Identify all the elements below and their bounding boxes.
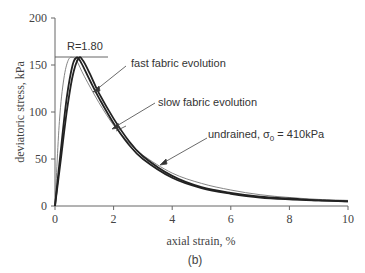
x-tick-2: 2 — [111, 212, 117, 226]
x-tick-0: 0 — [52, 212, 58, 226]
y-axis-label: deviatoric stress, kPa — [13, 61, 27, 163]
x-tick-8: 8 — [286, 212, 292, 226]
y-tick-0: 0 — [41, 199, 47, 213]
chart-canvas: 0 50 100 150 200 0 2 4 6 8 10 deviatoric… — [0, 0, 365, 273]
r-ratio-label: R=1.80 — [67, 40, 103, 52]
y-tick-50: 50 — [35, 152, 47, 166]
y-tick-100: 100 — [29, 105, 47, 119]
x-tick-4: 4 — [169, 212, 175, 226]
annotation-arrows — [93, 66, 207, 165]
y-tick-150: 150 — [29, 58, 47, 72]
y-ticks — [51, 18, 55, 206]
y-tick-200: 200 — [29, 11, 47, 25]
x-tick-10: 10 — [342, 212, 354, 226]
figure-caption: (b) — [188, 253, 203, 267]
slow-fabric-label: slow fabric evolution — [158, 96, 257, 108]
x-tick-6: 6 — [228, 212, 234, 226]
undrained-label: undrained, σ0 = 410kPa — [208, 128, 325, 143]
fast-fabric-label: fast fabric evolution — [131, 57, 226, 69]
x-ticks — [55, 206, 348, 210]
x-axis-label: axial strain, % — [167, 234, 236, 248]
